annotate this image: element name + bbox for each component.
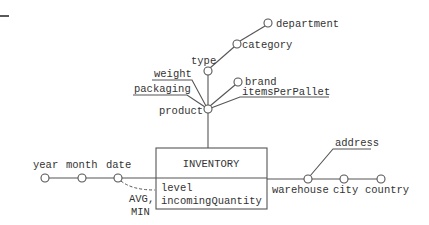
label-itemsperpallet: itemsPerPallet	[242, 86, 330, 98]
aggregation-label-min: MIN	[131, 206, 150, 218]
aggregation-label-avg: AVG,	[129, 193, 154, 205]
label-month: month	[66, 159, 98, 171]
edge-product-brand	[210, 85, 235, 106]
label-packaging: packaging	[134, 83, 191, 95]
label-warehouse: warehouse	[272, 184, 329, 196]
node-category	[233, 40, 241, 48]
measure-incomingquantity: incomingQuantity	[161, 195, 262, 207]
node-product	[204, 105, 212, 113]
dfm-diagram: INVENTORY level incomingQuantity departm…	[0, 0, 429, 225]
label-country: country	[365, 184, 409, 196]
node-city	[340, 175, 348, 183]
label-product: product	[159, 105, 203, 117]
label-date: date	[106, 159, 131, 171]
node-country	[377, 175, 385, 183]
aggregation-dashed-line	[121, 181, 155, 190]
measure-level: level	[161, 182, 193, 194]
node-date	[114, 174, 122, 182]
node-brand	[234, 78, 242, 86]
attr-address-line	[310, 149, 371, 176]
node-type	[204, 67, 212, 75]
fact-name: INVENTORY	[183, 158, 240, 170]
label-type: type	[191, 55, 216, 67]
label-year: year	[33, 159, 58, 171]
label-weight: weight	[154, 68, 192, 80]
label-city: city	[333, 184, 358, 196]
node-month	[78, 174, 86, 182]
node-year	[41, 174, 49, 182]
node-department	[264, 19, 272, 27]
label-department: department	[276, 18, 339, 30]
node-warehouse	[304, 175, 312, 183]
label-address: address	[335, 137, 379, 149]
attr-itemsperpallet-line	[211, 97, 329, 108]
label-category: category	[242, 39, 292, 51]
